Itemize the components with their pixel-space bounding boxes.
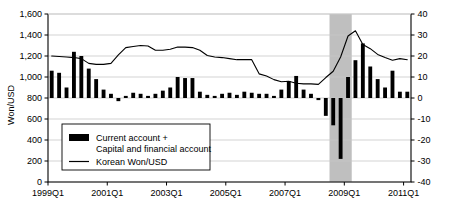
bar <box>309 94 313 98</box>
x-axis-tick-label: 2001Q1 <box>91 188 123 198</box>
bar <box>405 92 409 98</box>
x-axis-tick-label: 2007Q1 <box>269 188 301 198</box>
bar <box>109 94 113 98</box>
legend-bar-swatch <box>69 134 89 141</box>
bar <box>354 60 358 98</box>
bar <box>102 90 106 98</box>
bar <box>324 98 328 116</box>
bar <box>198 92 202 98</box>
y-axis-left-tick-label: 1,200 <box>19 51 42 61</box>
bar <box>131 93 135 98</box>
bar <box>50 71 54 98</box>
bar <box>287 81 291 98</box>
y-axis-right-tick-label: 0 <box>418 93 423 103</box>
x-axis-tick-label: 2005Q1 <box>210 188 242 198</box>
bar <box>146 96 150 98</box>
y-axis-right-tick-label: -10 <box>418 114 431 124</box>
bar <box>346 77 350 98</box>
y-axis-left-tick-label: 1,000 <box>19 72 42 82</box>
bar <box>168 88 172 99</box>
y-axis-right-tick-label: 40 <box>418 9 428 19</box>
bar <box>250 93 254 98</box>
bar <box>257 94 261 98</box>
bar <box>398 92 402 98</box>
y-axis-right-tick-label: 10 <box>418 72 428 82</box>
bar <box>316 98 320 100</box>
x-axis-tick-label: 1999Q1 <box>32 188 64 198</box>
y-axis-right-tick-label: 30 <box>418 30 428 40</box>
bar <box>72 52 76 98</box>
bar <box>272 96 276 98</box>
y-axis-right-tick-label: -40 <box>418 177 431 187</box>
bar <box>183 78 187 98</box>
bar <box>391 71 395 98</box>
legend-label-bar-line1: Current account + <box>96 133 168 143</box>
bar <box>294 76 298 98</box>
bar <box>79 56 83 98</box>
bar <box>220 94 224 98</box>
bar <box>302 90 306 98</box>
bar <box>265 94 269 98</box>
bar <box>331 98 335 125</box>
bar <box>57 73 61 98</box>
bar <box>124 96 128 98</box>
bar <box>228 93 232 98</box>
y-axis-left-tick-label: 0 <box>37 177 42 187</box>
y-axis-left-tick-label: 1,400 <box>19 30 42 40</box>
y-axis-left-tick-label: 800 <box>27 93 42 103</box>
bar <box>87 69 91 98</box>
bar <box>213 96 217 98</box>
bar <box>139 94 143 98</box>
bar <box>242 92 246 98</box>
bar <box>176 77 180 98</box>
x-axis-tick-label: 2009Q1 <box>328 188 360 198</box>
bar <box>339 98 343 159</box>
bar <box>383 88 387 99</box>
bar <box>116 98 120 101</box>
chart-figure: 02004006008001,0001,2001,4001,600 -40-30… <box>0 0 460 210</box>
x-axis-tick-label: 2003Q1 <box>151 188 183 198</box>
bar <box>279 90 283 98</box>
bar <box>161 91 165 98</box>
bar <box>235 95 239 98</box>
chart-background <box>0 0 460 210</box>
legend-label-bar-line2: Capital and financial account <box>96 144 212 154</box>
bar <box>376 79 380 98</box>
y-axis-left-tick-label: 1,600 <box>19 9 42 19</box>
y-axis-right-tick-label: 20 <box>418 51 428 61</box>
y-axis-left-tick-label: 400 <box>27 135 42 145</box>
bar <box>191 78 195 98</box>
y-axis-left-title: Won/USD <box>6 85 16 125</box>
bar <box>65 88 69 99</box>
y-axis-left-tick-label: 200 <box>27 156 42 166</box>
bar <box>368 67 372 99</box>
bar <box>361 43 365 98</box>
bar <box>153 94 157 98</box>
bar <box>205 95 209 98</box>
y-axis-right-tick-label: -30 <box>418 156 431 166</box>
bar <box>94 79 98 98</box>
legend-label-line-line1: Korean Won/USD <box>96 157 168 167</box>
y-axis-right-tick-label: -20 <box>418 135 431 145</box>
chart-legend: Current account + Capital and financial … <box>62 124 212 170</box>
chart-canvas: 02004006008001,0001,2001,4001,600 -40-30… <box>0 0 460 210</box>
y-axis-left-tick-label: 600 <box>27 114 42 124</box>
x-axis-tick-label: 2011Q1 <box>388 188 419 198</box>
